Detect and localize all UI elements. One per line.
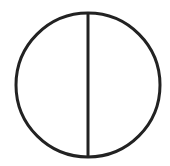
circle-diagram <box>0 0 170 166</box>
diagram-canvas <box>0 0 170 166</box>
